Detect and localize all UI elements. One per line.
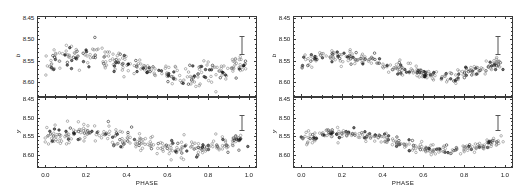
light-curve-figure: b 8.458.508.558.60 y PHASE 8.458.508.558…	[0, 0, 525, 196]
error-bar-cap-top	[495, 115, 500, 116]
error-bar-cap-top	[239, 115, 244, 116]
error-bar-right-bottom	[495, 115, 501, 131]
subplot-left-bottom: y PHASE 8.458.508.558.600.00.20.40.60.81…	[0, 0, 262, 196]
error-bar-stem	[497, 115, 498, 131]
error-bar-cap-bottom	[495, 130, 500, 131]
panel-group-right: b 8.458.508.558.60 y PHASE 8.458.508.558…	[262, 0, 525, 196]
error-bar-stem	[241, 115, 242, 131]
error-bar-left-bottom	[239, 115, 245, 131]
panel-group-left: b 8.458.508.558.60 y PHASE 8.458.508.558…	[0, 0, 262, 196]
scatter-points-left-bottom	[0, 0, 262, 196]
subplot-right-bottom: y PHASE 8.458.508.558.600.00.20.40.60.81…	[262, 0, 525, 196]
error-bar-cap-bottom	[239, 130, 244, 131]
scatter-points-right-bottom	[262, 0, 525, 196]
